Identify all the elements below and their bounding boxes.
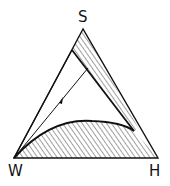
ternary-diagram: [0, 0, 170, 186]
upper-hatched-region: [72, 29, 139, 131]
vertex-label-top: S: [78, 10, 88, 25]
vertex-label-bottom-left: W: [8, 164, 23, 179]
arrow-icon: [59, 97, 63, 104]
vertex-label-bottom-right: H: [149, 164, 160, 179]
